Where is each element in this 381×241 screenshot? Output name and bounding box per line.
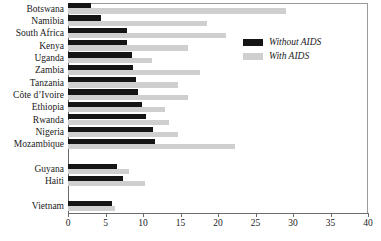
bar-with-aids: [68, 33, 226, 38]
bar-with-aids: [68, 82, 178, 87]
category-label: Guyana: [34, 164, 64, 174]
bar-group: [68, 52, 368, 64]
x-tick: [68, 213, 69, 217]
bar-group: [68, 89, 368, 101]
category-label: Kenya: [39, 41, 64, 51]
category-label: Rwanda: [33, 115, 64, 125]
category-label: Uganda: [34, 53, 64, 63]
x-tick-label: 35: [326, 218, 336, 228]
legend: Without AIDS With AIDS: [243, 36, 321, 64]
x-tick: [143, 213, 144, 217]
bar-group: [68, 15, 368, 27]
bar-group: [68, 139, 368, 151]
x-tick-label: 10: [138, 218, 148, 228]
bar-with-aids: [68, 181, 145, 186]
x-tick: [181, 213, 182, 217]
x-tick: [106, 213, 107, 217]
category-label: Botswana: [27, 4, 64, 14]
bar-group: [68, 127, 368, 139]
bar-group: [68, 176, 368, 188]
x-tick: [368, 213, 369, 217]
category-label: Zambia: [35, 65, 64, 75]
x-tick: [293, 213, 294, 217]
category-label: Tanzania: [30, 78, 64, 88]
bar-with-aids: [68, 144, 235, 149]
legend-label-without-aids: Without AIDS: [269, 37, 321, 47]
x-tick-label: 5: [103, 218, 108, 228]
bar-group: [68, 201, 368, 213]
bar-group: [68, 65, 368, 77]
bar-group: [68, 3, 368, 15]
bar-group: [68, 40, 368, 52]
x-tick: [331, 213, 332, 217]
bar-with-aids: [68, 21, 207, 26]
category-label: South Africa: [16, 28, 64, 38]
bar-with-aids: [68, 107, 165, 112]
legend-swatch-without-aids: [243, 39, 263, 46]
x-tick-label: 30: [288, 218, 298, 228]
bar-with-aids: [68, 8, 286, 13]
bar-with-aids: [68, 120, 169, 125]
bar-group: [68, 28, 368, 40]
category-label: Ethiopia: [32, 102, 64, 112]
category-label: Namibia: [31, 16, 64, 26]
x-tick-label: 20: [213, 218, 223, 228]
bar-with-aids: [68, 206, 115, 211]
category-label: Mozambique: [14, 139, 64, 149]
x-tick: [256, 213, 257, 217]
x-tick-label: 40: [363, 218, 373, 228]
category-label: Côte d’Ivoire: [13, 90, 64, 100]
legend-item-with-aids: With AIDS: [243, 50, 321, 62]
bar-group: [68, 77, 368, 89]
x-tick-label: 0: [66, 218, 71, 228]
bar-group: [68, 114, 368, 126]
legend-swatch-with-aids: [243, 53, 263, 60]
bar-with-aids: [68, 132, 178, 137]
x-tick-label: 15: [176, 218, 186, 228]
bar-chart: BotswanaNamibiaSouth AfricaKenyaUgandaZa…: [0, 0, 381, 241]
x-tick: [218, 213, 219, 217]
legend-item-without-aids: Without AIDS: [243, 36, 321, 48]
bar-with-aids: [68, 58, 152, 63]
x-tick-label: 25: [251, 218, 261, 228]
legend-label-with-aids: With AIDS: [269, 51, 309, 61]
bar-with-aids: [68, 95, 188, 100]
bar-with-aids: [68, 45, 188, 50]
category-label: Nigeria: [36, 127, 65, 137]
category-label: Vietnam: [32, 201, 64, 211]
bar-with-aids: [68, 70, 200, 75]
bar-with-aids: [68, 169, 129, 174]
category-label: Haiti: [45, 176, 64, 186]
category-label-column: BotswanaNamibiaSouth AfricaKenyaUgandaZa…: [0, 0, 67, 213]
bar-group: [68, 164, 368, 176]
bar-group: [68, 102, 368, 114]
